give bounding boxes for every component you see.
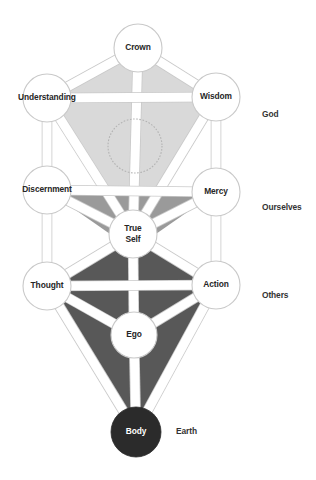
node-label-ego: Ego [126,329,142,339]
node-body[interactable]: Body [111,407,161,457]
realm-label-others: Others [262,290,289,300]
node-label-true-self: Self [126,234,141,244]
node-label-mercy: Mercy [204,186,228,196]
node-mercy[interactable]: Mercy [192,168,240,216]
node-true-self[interactable]: TrueSelf [109,210,157,258]
path-thought-to-action [47,285,216,286]
node-label-true-self: True [124,223,142,233]
path-crown-to-true-self [133,48,138,234]
node-ego[interactable]: Ego [111,312,157,358]
path-discernment-to-mercy [47,190,216,192]
node-label-thought: Thought [31,280,64,290]
node-label-body: Body [126,426,147,436]
node-label-discernment: Discernment [22,184,72,194]
node-discernment[interactable]: Discernment [22,166,72,214]
node-thought[interactable]: Thought [23,262,71,310]
realm-label-god: God [262,109,278,119]
node-wisdom[interactable]: Wisdom [192,73,240,121]
realm-label-earth: Earth [176,426,197,436]
node-crown[interactable]: Crown [114,24,162,72]
tree-of-life-canvas: CrownUnderstandingWisdomDiscernmentMercy… [0,0,316,480]
node-label-wisdom: Wisdom [200,91,232,101]
node-label-crown: Crown [125,42,151,52]
node-label-action: Action [203,279,228,289]
node-action[interactable]: Action [192,261,240,309]
node-label-understanding: Understanding [18,92,76,102]
realm-label-ourselves: Ourselves [262,202,302,212]
tree-of-life-diagram: CrownUnderstandingWisdomDiscernmentMercy… [0,0,316,480]
